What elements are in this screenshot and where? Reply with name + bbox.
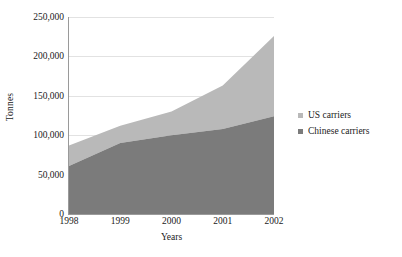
y-axis-tick-label: 250,000 (33, 12, 64, 22)
x-axis-line (68, 214, 274, 215)
x-axis-title: Years (69, 232, 274, 242)
y-axis-tick-labels: 050,000100,000150,000200,000250,000 (18, 0, 66, 230)
x-axis-tick-label: 2001 (213, 216, 232, 226)
legend-label: US carriers (308, 110, 351, 120)
area-series-group (69, 17, 274, 214)
y-axis-tick-label: 50,000 (38, 170, 64, 180)
x-axis-tick-label: 2002 (265, 216, 284, 226)
legend-item: US carriers (298, 110, 398, 120)
x-axis-tick-label: 2000 (162, 216, 181, 226)
x-axis-tick-label: 1998 (60, 216, 79, 226)
legend-swatch (298, 113, 303, 118)
x-axis-title-label: Years (161, 232, 182, 242)
y-axis-title: Tonnes (2, 0, 18, 214)
legend-item: Chinese carriers (298, 126, 398, 136)
y-axis-title-label: Tonnes (5, 93, 15, 122)
y-axis-tick-label: 150,000 (33, 91, 64, 101)
chart-legend: US carriersChinese carriers (298, 110, 398, 142)
y-axis-tick-label: 200,000 (33, 51, 64, 61)
legend-swatch (298, 129, 303, 134)
plot-area (69, 17, 274, 214)
x-axis-tick-label: 1999 (111, 216, 130, 226)
y-axis-tick-label: 100,000 (33, 130, 64, 140)
legend-label: Chinese carriers (308, 126, 369, 136)
stacked-area-chart: Tonnes 050,000100,000150,000200,000250,0… (0, 0, 402, 257)
x-axis-tick-labels: 19981999200020012002 (0, 216, 402, 232)
